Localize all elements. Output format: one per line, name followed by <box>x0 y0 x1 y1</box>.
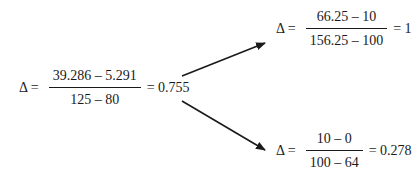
fraction: 10 – 0 100 – 64 <box>306 131 363 171</box>
result: = 0.278 <box>369 143 412 159</box>
equation-upper: Δ = 66.25 – 10 156.25 – 100 = 1 <box>276 9 412 49</box>
fraction: 39.286 – 5.291 125 – 80 <box>49 68 141 108</box>
numerator: 39.286 – 5.291 <box>49 68 141 87</box>
fraction: 66.25 – 10 156.25 – 100 <box>306 9 388 49</box>
denominator: 100 – 64 <box>306 151 363 171</box>
arrow-to-upper <box>182 43 265 76</box>
delta-label: Δ = <box>276 21 296 37</box>
result: = 0.755 <box>147 80 190 96</box>
delta-label: Δ = <box>276 143 296 159</box>
denominator: 125 – 80 <box>66 88 123 108</box>
numerator: 66.25 – 10 <box>313 9 381 28</box>
result: = 1 <box>393 21 411 37</box>
equation-lower: Δ = 10 – 0 100 – 64 = 0.278 <box>276 131 412 171</box>
delta-label: Δ = <box>19 80 39 96</box>
equation-main: Δ = 39.286 – 5.291 125 – 80 = 0.755 <box>19 68 190 108</box>
numerator: 10 – 0 <box>313 131 356 150</box>
denominator: 156.25 – 100 <box>306 29 388 49</box>
arrow-to-lower <box>182 101 265 150</box>
